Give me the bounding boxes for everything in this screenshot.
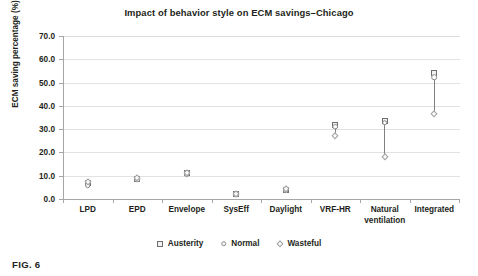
legend-swatch-circle xyxy=(220,240,227,247)
gridline xyxy=(64,59,460,60)
x-tick-label-line1: EPD xyxy=(129,205,146,214)
x-tick-label-line1: LPD xyxy=(80,205,96,214)
data-point-circle xyxy=(431,74,437,80)
data-point-circle xyxy=(382,120,388,126)
x-tick-label-line1: Envelope xyxy=(169,205,205,214)
y-tick-label: 70.0 xyxy=(2,32,60,41)
x-tick-label-line1: Daylight xyxy=(270,205,302,214)
legend-swatch-square xyxy=(157,240,164,247)
y-axis-tick-labels: 0.010.020.030.040.050.060.070.0 xyxy=(0,0,60,276)
x-tick-label-integrated: Integrated xyxy=(414,205,454,216)
legend-item-normal[interactable]: Normal xyxy=(220,239,259,248)
x-tick-mark xyxy=(360,199,361,203)
x-tick-mark xyxy=(113,199,114,203)
legend-item-wasteful[interactable]: Wasteful xyxy=(276,239,321,248)
legend-item-austerity[interactable]: Austerity xyxy=(157,239,204,248)
legend-label: Austerity xyxy=(168,239,204,248)
x-tick-label-daylight: Daylight xyxy=(270,205,302,216)
gridline xyxy=(64,152,460,153)
chart-title: Impact of behavior style on ECM savings–… xyxy=(0,7,478,18)
plot-area xyxy=(63,36,460,200)
x-tick-label-line1: VRF-HR xyxy=(320,205,351,214)
gridline xyxy=(64,83,460,84)
x-tick-label-line1: Integrated xyxy=(414,205,454,214)
x-tick-label-line2: ventilation xyxy=(364,216,405,227)
data-point-circle xyxy=(332,124,338,130)
figure-root: Impact of behavior style on ECM savings–… xyxy=(0,0,478,276)
legend-label: Normal xyxy=(231,239,259,248)
x-tick-label-syseff: SysEff xyxy=(224,205,249,216)
y-tick-label: 0.0 xyxy=(2,195,60,204)
y-tick-label: 10.0 xyxy=(2,171,60,180)
y-tick-label: 30.0 xyxy=(2,125,60,134)
gridline xyxy=(64,36,460,37)
x-tick-label-envelope: Envelope xyxy=(169,205,205,216)
x-tick-mark xyxy=(459,199,460,203)
gridline xyxy=(64,176,460,177)
chart-legend: AusterityNormalWasteful xyxy=(0,239,478,248)
x-tick-label-line1: Natural xyxy=(371,205,399,214)
y-tick-label: 40.0 xyxy=(2,101,60,110)
legend-label: Wasteful xyxy=(287,239,321,248)
x-tick-mark xyxy=(410,199,411,203)
x-tick-label-natural-ventilation: Naturalventilation xyxy=(364,205,405,226)
x-tick-mark xyxy=(261,199,262,203)
legend-swatch-diamond xyxy=(276,240,283,247)
x-tick-mark xyxy=(162,199,163,203)
data-point-diamond xyxy=(276,240,283,247)
data-point-circle xyxy=(221,241,227,247)
x-tick-label-vrf-hr: VRF-HR xyxy=(320,205,351,216)
data-point-square xyxy=(157,241,163,247)
figure-caption: FIG. 6 xyxy=(12,259,40,270)
gridline xyxy=(64,129,460,130)
y-tick-label: 20.0 xyxy=(2,148,60,157)
x-tick-label-lpd: LPD xyxy=(80,205,96,216)
x-tick-mark xyxy=(63,199,64,203)
series-connector xyxy=(384,121,385,156)
y-tick-label: 50.0 xyxy=(2,78,60,87)
y-tick-label: 60.0 xyxy=(2,55,60,64)
x-tick-mark xyxy=(212,199,213,203)
x-tick-mark xyxy=(311,199,312,203)
gridline xyxy=(64,106,460,107)
x-tick-label-epd: EPD xyxy=(129,205,146,216)
x-tick-label-line1: SysEff xyxy=(224,205,249,214)
